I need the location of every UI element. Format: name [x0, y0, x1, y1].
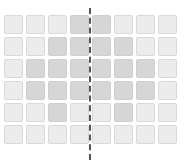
- grid-cell-r5-c1[interactable]: [4, 103, 23, 122]
- grid-cell-r1-c6[interactable]: [114, 15, 133, 34]
- grid-cell-r1-c8[interactable]: [158, 15, 177, 34]
- grid-cell-r3-c2[interactable]: [26, 59, 45, 78]
- grid-cell-r5-c6[interactable]: [114, 103, 133, 122]
- grid-cell-r3-c5[interactable]: [92, 59, 111, 78]
- grid-cell-r2-c7[interactable]: [136, 37, 155, 56]
- grid-cell-r6-c6[interactable]: [114, 125, 133, 144]
- grid-cell-r6-c3[interactable]: [48, 125, 67, 144]
- grid-cell-r4-c6[interactable]: [114, 81, 133, 100]
- grid-cell-r6-c2[interactable]: [26, 125, 45, 144]
- grid-cell-r3-c7[interactable]: [136, 59, 155, 78]
- grid-cell-r3-c3[interactable]: [48, 59, 67, 78]
- symmetry-axis-line: [89, 8, 91, 160]
- grid-cell-r3-c6[interactable]: [114, 59, 133, 78]
- grid-cell-r5-c2[interactable]: [26, 103, 45, 122]
- grid-cell-r1-c3[interactable]: [48, 15, 67, 34]
- grid-cell-r6-c8[interactable]: [158, 125, 177, 144]
- grid-cell-r5-c4[interactable]: [70, 103, 89, 122]
- grid-cell-r2-c4[interactable]: [70, 37, 89, 56]
- grid-cell-r1-c2[interactable]: [26, 15, 45, 34]
- grid-cell-r2-c3[interactable]: [48, 37, 67, 56]
- grid-cell-r5-c5[interactable]: [92, 103, 111, 122]
- grid-cell-r6-c1[interactable]: [4, 125, 23, 144]
- grid-cell-r4-c7[interactable]: [136, 81, 155, 100]
- grid-cell-r5-c3[interactable]: [48, 103, 67, 122]
- grid-cell-r4-c2[interactable]: [26, 81, 45, 100]
- grid-cell-r4-c8[interactable]: [158, 81, 177, 100]
- grid-cell-r3-c1[interactable]: [4, 59, 23, 78]
- grid-cell-r6-c7[interactable]: [136, 125, 155, 144]
- grid-cell-r1-c1[interactable]: [4, 15, 23, 34]
- grid-cell-r1-c7[interactable]: [136, 15, 155, 34]
- grid-cell-r2-c8[interactable]: [158, 37, 177, 56]
- grid-cell-r2-c5[interactable]: [92, 37, 111, 56]
- grid-cell-r2-c2[interactable]: [26, 37, 45, 56]
- grid-cell-r1-c4[interactable]: [70, 15, 89, 34]
- grid-cell-r2-c1[interactable]: [4, 37, 23, 56]
- grid-cell-r5-c8[interactable]: [158, 103, 177, 122]
- grid-cell-r4-c3[interactable]: [48, 81, 67, 100]
- grid-cell-r1-c5[interactable]: [92, 15, 111, 34]
- grid-cell-r3-c4[interactable]: [70, 59, 89, 78]
- grid-cell-r6-c4[interactable]: [70, 125, 89, 144]
- grid-cell-r4-c4[interactable]: [70, 81, 89, 100]
- grid-cell-r2-c6[interactable]: [114, 37, 133, 56]
- grid-cell-r4-c1[interactable]: [4, 81, 23, 100]
- grid-cell-r4-c5[interactable]: [92, 81, 111, 100]
- grid-cell-r5-c7[interactable]: [136, 103, 155, 122]
- grid-cell-r3-c8[interactable]: [158, 59, 177, 78]
- grid-cell-r6-c5[interactable]: [92, 125, 111, 144]
